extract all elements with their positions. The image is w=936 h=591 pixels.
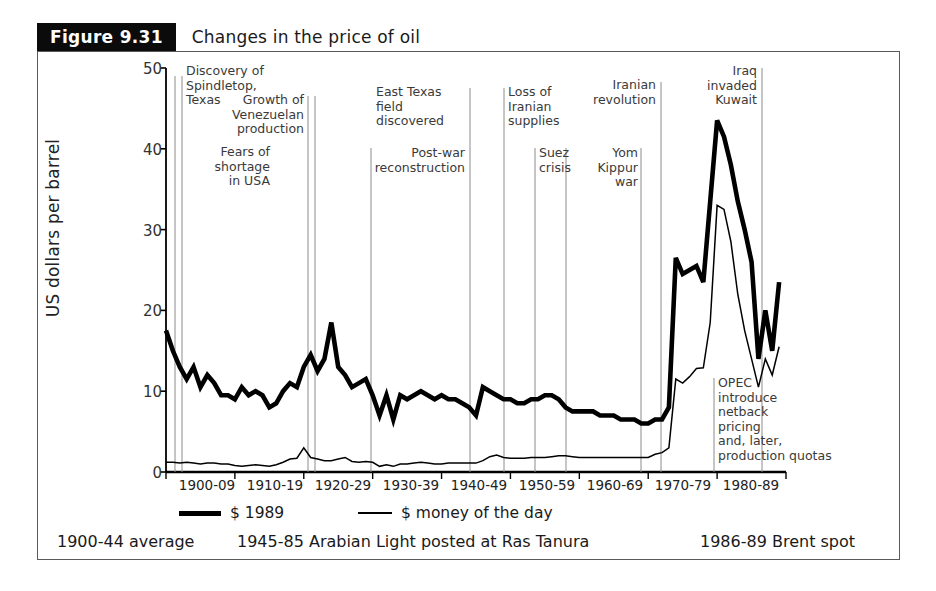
y-tick-20: 20 — [128, 302, 162, 320]
x-tick-1920-29: 1920-29 — [306, 477, 380, 493]
y-tick-40: 40 — [128, 141, 162, 159]
footer-note-middle: 1945-85 Arabian Light posted at Ras Tanu… — [237, 532, 589, 551]
annotation-fears-shortage: Fears of shortage in USA — [170, 145, 270, 189]
annotation-iraq-kuwait: Iraq invaded Kuwait — [679, 64, 757, 108]
legend-item-dollars-1989: $ 1989 — [179, 504, 284, 522]
y-axis-label: US dollars per barrel — [43, 123, 63, 333]
legend-item-money-of-the-day: $ money of the day — [358, 504, 553, 522]
x-tick-1970-79: 1970-79 — [646, 477, 720, 493]
x-tick-1900-09: 1900-09 — [170, 477, 244, 493]
x-tick-1940-49: 1940-49 — [442, 477, 516, 493]
x-tick-1980-89: 1980-89 — [714, 477, 788, 493]
annotation-yom-kippur: Yom Kippur war — [586, 146, 638, 190]
y-tick-50: 50 — [128, 60, 162, 78]
annotation-iranian-revolution: Iranian revolution — [566, 78, 656, 107]
footer-note-right: 1986-89 Brent spot — [700, 532, 855, 551]
annotation-post-war: Post-war reconstruction — [355, 146, 465, 175]
x-tick-1960-69: 1960-69 — [578, 477, 652, 493]
legend-label-dollars-1989: $ 1989 — [230, 504, 284, 522]
x-tick-1950-59: 1950-59 — [510, 477, 584, 493]
y-tick-0: 0 — [128, 464, 162, 482]
figure-title: Changes in the price of oil — [176, 23, 420, 51]
x-tick-1910-19: 1910-19 — [238, 477, 312, 493]
legend-swatch-thick-line — [179, 511, 221, 516]
figure-header: Figure 9.31 Changes in the price of oil — [37, 23, 900, 51]
legend-swatch-thin-line — [358, 512, 392, 514]
legend-label-money-of-the-day: $ money of the day — [401, 504, 553, 522]
x-tick-1930-39: 1930-39 — [374, 477, 448, 493]
annotation-opec-netback: OPEC introduce netback pricing and, late… — [718, 376, 868, 463]
y-tick-10: 10 — [128, 383, 162, 401]
y-tick-30: 30 — [128, 222, 162, 240]
footer-note-left: 1900-44 average — [57, 532, 194, 551]
figure-number-badge: Figure 9.31 — [37, 23, 176, 51]
annotation-venezuela: Growth of Venezuelan production — [196, 93, 304, 137]
annotation-east-texas: East Texas field discovered — [376, 85, 472, 129]
figure-page: Figure 9.31 Changes in the price of oil … — [0, 0, 936, 591]
